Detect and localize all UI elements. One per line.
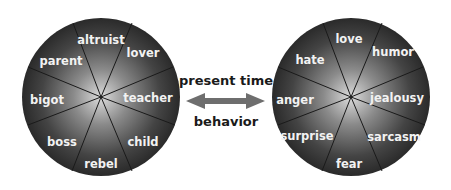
wheel-label: anger [276,93,314,107]
wheel-label: surprise [280,129,333,143]
wheel-label: lover [127,46,160,60]
left-wheel: altruist lover teacher child rebel boss … [22,18,180,176]
connector-bottom-label: behavior [176,114,276,129]
wheel-label: teacher [123,91,173,105]
wheel-label: love [335,32,362,46]
diagram-canvas: altruist lover teacher child rebel boss … [0,0,451,190]
right-wheel: love humor jealousy sarcasm fear surpris… [272,18,430,176]
connector-top-label: present time [176,73,276,88]
wheel-label: child [127,135,158,149]
wheel-label: rebel [84,157,117,171]
wheel-label: humor [372,45,414,59]
wheel-label: parent [39,54,83,68]
wheel-label: sarcasm [367,130,421,144]
wheel-label: fear [336,157,363,171]
wheel-label: bigot [30,93,64,107]
double-headed-arrow-icon [186,93,265,109]
wheel-label: jealousy [369,91,424,105]
wheel-label: boss [47,135,77,149]
wheel-label: altruist [77,33,125,47]
wheel-label: hate [295,53,324,67]
